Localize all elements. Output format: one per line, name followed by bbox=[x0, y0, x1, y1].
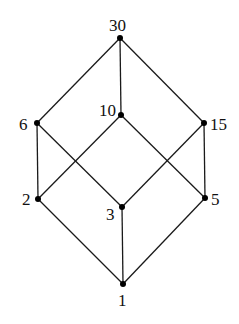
node-1 bbox=[120, 281, 126, 287]
node-30 bbox=[117, 35, 123, 41]
hasse-diagram: 30106152351 bbox=[0, 0, 239, 324]
edge-30-10 bbox=[120, 38, 121, 115]
edges bbox=[37, 38, 205, 284]
edge-6-2 bbox=[37, 123, 38, 199]
node-label-30: 30 bbox=[109, 16, 126, 35]
edge-10-2 bbox=[38, 115, 121, 199]
edge-3-1 bbox=[122, 207, 123, 284]
edge-5-1 bbox=[123, 198, 205, 284]
edge-30-15 bbox=[120, 38, 204, 123]
node-label-3: 3 bbox=[106, 205, 115, 224]
edge-15-3 bbox=[122, 123, 204, 207]
node-label-1: 1 bbox=[118, 291, 127, 310]
node-15 bbox=[201, 120, 207, 126]
edge-15-5 bbox=[204, 123, 205, 198]
node-5 bbox=[202, 195, 208, 201]
node-10 bbox=[118, 112, 124, 118]
edge-6-3 bbox=[37, 123, 122, 207]
node-label-5: 5 bbox=[211, 190, 220, 209]
node-6 bbox=[34, 120, 40, 126]
edge-10-5 bbox=[121, 115, 205, 198]
node-label-10: 10 bbox=[99, 101, 116, 120]
node-label-2: 2 bbox=[22, 190, 31, 209]
node-2 bbox=[35, 196, 41, 202]
node-3 bbox=[119, 204, 125, 210]
node-label-15: 15 bbox=[210, 115, 227, 134]
node-label-6: 6 bbox=[19, 115, 28, 134]
